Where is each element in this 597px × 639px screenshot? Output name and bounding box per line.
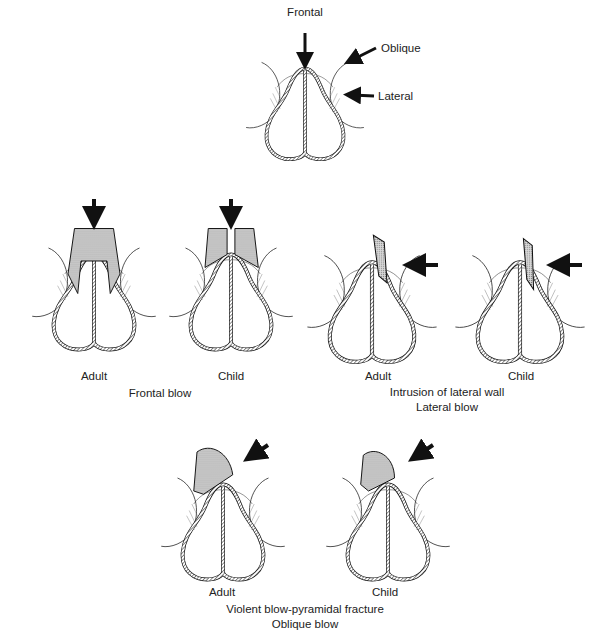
oblique-arrow-icon [352, 48, 376, 60]
caption-oblique-blow: Oblique blow [272, 618, 338, 631]
oblique-adult-arrow-icon [253, 445, 268, 455]
top-nose-diagram [246, 62, 364, 159]
caption-lateral-blow: Lateral blow [416, 401, 478, 414]
caption-frontal-blow: Frontal blow [129, 387, 192, 400]
caption-pyramidal-fracture: Violent blow-pyramidal fracture [226, 603, 384, 616]
oblique-child-diagram [326, 451, 450, 579]
label-frontal-child: Child [218, 370, 244, 383]
lateral-arrow-icon [352, 95, 374, 96]
label-oblique-child: Child [372, 586, 398, 599]
label-lateral-adult: Adult [365, 370, 391, 383]
nasal-fracture-diagram [0, 0, 597, 639]
label-oblique: Oblique [381, 42, 421, 55]
lateral-child-diagram [455, 239, 584, 362]
lateral-adult-diagram [307, 235, 436, 362]
label-frontal-adult: Adult [81, 370, 107, 383]
label-lateral: Lateral [378, 90, 413, 103]
label-oblique-adult: Adult [209, 586, 235, 599]
label-lateral-child: Child [508, 370, 534, 383]
frontal-child-diagram [169, 229, 293, 350]
oblique-adult-diagram [161, 448, 285, 579]
label-frontal: Frontal [287, 6, 323, 19]
oblique-child-arrow-icon [418, 445, 433, 455]
caption-lateral-wall: Intrusion of lateral wall [390, 386, 504, 399]
frontal-adult-diagram [32, 229, 156, 350]
